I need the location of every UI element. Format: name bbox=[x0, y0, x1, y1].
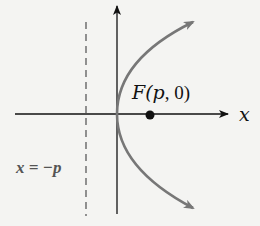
parabola-lower-arm bbox=[117, 114, 193, 208]
focus-point bbox=[146, 111, 155, 120]
parabola-diagram: F(p, 0) x x = −p bbox=[0, 0, 260, 226]
directrix-label: x = −p bbox=[15, 158, 62, 177]
x-axis-label: x bbox=[239, 103, 250, 125]
focus-label: F(p, 0) bbox=[131, 81, 190, 104]
